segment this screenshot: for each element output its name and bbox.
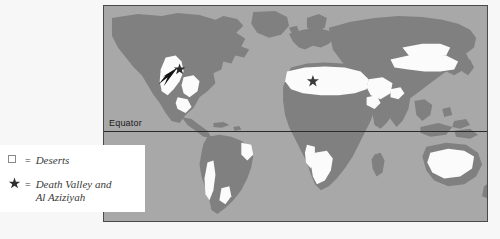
new-zealand-islands	[482, 184, 487, 198]
legend-equals-sign-2: =	[24, 178, 36, 191]
world-map-graphic	[104, 6, 487, 221]
legend-star-icon	[8, 178, 24, 190]
legend-item-star: = Death Valley and Al Aziziyah	[8, 178, 111, 204]
caribbean-islands	[213, 122, 229, 128]
desert-sahara	[285, 66, 369, 95]
scandinavia-landmass	[307, 14, 327, 32]
philippines-islands	[442, 107, 452, 117]
map-legend: = Deserts = Death Valley and Al Aziziyah	[0, 145, 145, 212]
legend-item-deserts: = Deserts	[8, 154, 69, 167]
legend-square-icon	[8, 154, 24, 163]
star-icon-glyph	[8, 177, 21, 190]
indonesia-islands-2	[452, 119, 470, 129]
world-map: Equator	[103, 5, 488, 222]
equator-line	[104, 131, 488, 132]
central-america-landmass	[182, 117, 212, 138]
indonesia-islands	[420, 123, 452, 137]
legend-equals-sign: =	[24, 154, 36, 167]
greenland-landmass	[251, 11, 289, 38]
world-deserts-figure: Equator = Deserts = Death Valley and Al …	[0, 0, 500, 239]
landmasses	[112, 11, 487, 214]
legend-label-locations: Death Valley and Al Aziziyah	[36, 178, 112, 204]
equator-label: Equator	[109, 118, 142, 129]
legend-label-deserts: Deserts	[36, 154, 70, 167]
southeast-asia-landmass	[414, 99, 432, 121]
madagascar-landmass	[372, 153, 385, 177]
